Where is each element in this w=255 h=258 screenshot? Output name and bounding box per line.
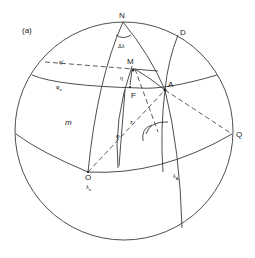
label-A: A xyxy=(168,80,174,89)
dashed-A-to-Q xyxy=(165,90,232,134)
panel-label: (a) xyxy=(22,26,32,35)
dashed-O-to-A xyxy=(88,90,165,172)
label-lambda-A: λA xyxy=(173,173,179,181)
label-m: m xyxy=(65,118,72,127)
angle-phi-arc xyxy=(143,125,152,141)
label-M: M xyxy=(127,57,134,66)
point-M xyxy=(132,69,135,72)
label-Q: Q xyxy=(236,130,242,139)
sphere-diagram: (a) N Δλ D M A F φ' φo η m φ z O λo λA Q xyxy=(0,0,255,258)
equator xyxy=(16,134,232,172)
label-phi: φ xyxy=(116,133,120,139)
label-z: z xyxy=(130,119,133,125)
label-phi-o: φo xyxy=(56,84,63,92)
label-delta-lambda: Δλ xyxy=(118,43,125,49)
angle-z-arc xyxy=(146,122,168,134)
label-O: O xyxy=(85,173,91,182)
point-A xyxy=(164,89,167,92)
meridian-m-arc xyxy=(117,66,132,168)
label-lambda-o: λo xyxy=(86,184,92,192)
sphere-outline xyxy=(15,22,233,240)
point-F xyxy=(129,86,131,88)
label-D: D xyxy=(180,28,186,37)
label-eta: η xyxy=(120,75,123,81)
label-phi-prime: φ' xyxy=(59,59,64,65)
delta-lambda-arc xyxy=(116,35,131,38)
label-F: F xyxy=(131,91,136,100)
label-N: N xyxy=(119,11,125,20)
meridian-D xyxy=(162,35,178,172)
